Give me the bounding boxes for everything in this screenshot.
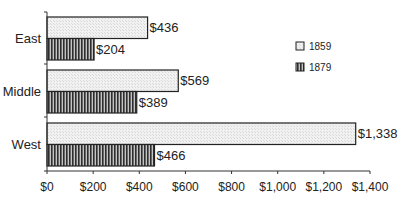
x-tick-label: $1,000 — [259, 180, 296, 194]
value-label-middle-1879: $389 — [139, 95, 168, 110]
bar-middle-1859 — [47, 70, 178, 92]
value-label-east-1879: $204 — [96, 42, 125, 57]
legend-label-1859: 1859 — [309, 41, 332, 52]
bar-east-1879 — [47, 39, 94, 61]
legend-swatch-1879 — [296, 63, 304, 71]
legend-label-1879: 1879 — [309, 62, 332, 73]
category-labels: EastMiddleWest — [3, 31, 42, 152]
value-label-west-1859: $1,338 — [358, 126, 398, 141]
legend-swatch-1859 — [296, 42, 304, 50]
bar-east-1859 — [47, 17, 148, 39]
x-tick-label: $1,400 — [352, 180, 389, 194]
category-label-east: East — [15, 31, 41, 46]
legend: 18591879 — [296, 41, 332, 73]
value-label-west-1879: $466 — [157, 148, 186, 163]
bar-west-1879 — [47, 145, 155, 167]
x-tick-label: $800 — [218, 180, 245, 194]
x-tick-label: $0 — [40, 180, 54, 194]
x-tick-label: $200 — [80, 180, 107, 194]
x-tick-label: $1,200 — [306, 180, 343, 194]
bars — [47, 17, 356, 166]
value-label-middle-1859: $569 — [180, 73, 209, 88]
value-label-east-1859: $436 — [150, 20, 179, 35]
x-tick-label: $400 — [126, 180, 153, 194]
category-label-west: West — [12, 137, 42, 152]
bar-middle-1879 — [47, 92, 137, 114]
bar-west-1859 — [47, 123, 356, 145]
category-label-middle: Middle — [3, 84, 41, 99]
x-tick-label: $600 — [172, 180, 199, 194]
bar-chart: EastMiddleWest $436$204$569$389$1,338$46… — [0, 0, 400, 205]
